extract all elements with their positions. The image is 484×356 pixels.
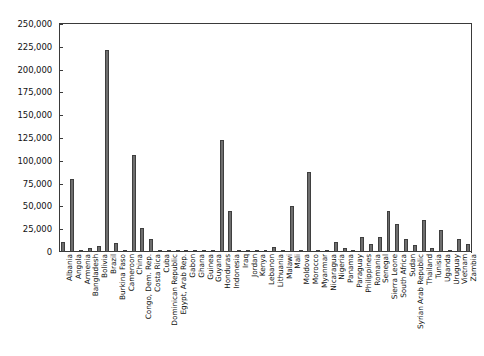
bar (79, 250, 83, 252)
bar-slot (103, 24, 112, 252)
x-axis-label: Bangladesh (92, 254, 99, 296)
bar (448, 250, 452, 252)
x-axis-label: Kenya (259, 254, 266, 276)
y-axis-tick-label: 50,000 (0, 201, 52, 211)
bar-slot (410, 24, 419, 252)
y-axis-tick-label: 0 (0, 247, 52, 257)
x-axis-label: Uruguay (453, 254, 460, 285)
bar (360, 237, 364, 252)
x-axis-label: Vietnam (461, 254, 468, 284)
x-axis-label: Romania (374, 254, 381, 286)
x-axis-label: Guyana (215, 254, 222, 282)
bar (105, 50, 109, 252)
x-axis-label: Congo, Dem. Rep. (145, 254, 152, 319)
bar (466, 244, 470, 252)
bar (202, 250, 206, 252)
bar-slot (244, 24, 253, 252)
bar (140, 228, 144, 252)
y-axis-tick-label: 25,000 (0, 224, 52, 234)
bar-slot (358, 24, 367, 252)
x-axis-label: Honduras (224, 254, 231, 289)
bar-slot (112, 24, 121, 252)
bar (264, 250, 268, 252)
x-axis-label: Sudan (409, 254, 416, 277)
x-axis-label: Ghana (198, 254, 205, 278)
x-axis-label: Cuba (163, 254, 170, 273)
x-axis-label: Costa Rica (154, 254, 161, 292)
bar-slot (340, 24, 349, 252)
x-axis-label: Panama (347, 254, 354, 283)
bar (114, 243, 118, 252)
x-axis-label: Myanmar (321, 254, 328, 288)
bar-slot (446, 24, 455, 252)
bar (123, 250, 127, 252)
bar (316, 250, 320, 252)
bar-slot (226, 24, 235, 252)
bar-slot (454, 24, 463, 252)
bar (193, 250, 197, 252)
bar (457, 239, 461, 252)
x-axis-label: Moldova (303, 254, 310, 284)
x-axis-label: Nigeria (338, 254, 345, 280)
y-axis-tick-label: 200,000 (0, 65, 52, 75)
x-axis-label: Philippines (365, 254, 372, 293)
y-axis-tick-label: 125,000 (0, 133, 52, 143)
bar-slot (305, 24, 314, 252)
y-axis-tick-label: 150,000 (0, 110, 52, 120)
bar-series (59, 24, 472, 252)
bar-slot (463, 24, 472, 252)
x-axis-label: China (136, 254, 143, 275)
bar (246, 250, 250, 252)
bar (70, 179, 74, 252)
bar (290, 206, 294, 252)
x-axis-label: Lebanon (268, 254, 275, 285)
bar-slot (147, 24, 156, 252)
bar-slot (279, 24, 288, 252)
bar-slot (296, 24, 305, 252)
bar-slot (235, 24, 244, 252)
x-axis-labels: AlbaniaAngolaArmeniaBangladeshBoliviaBra… (59, 254, 472, 354)
bar (255, 250, 259, 252)
x-axis-label: Mali (294, 254, 301, 269)
bar-slot (200, 24, 209, 252)
x-axis-label: Morocco (312, 254, 319, 284)
x-axis-label: Angola (75, 254, 82, 279)
bar-slot (85, 24, 94, 252)
bar-slot (375, 24, 384, 252)
bar-slot (384, 24, 393, 252)
bar-slot (428, 24, 437, 252)
bar-slot (331, 24, 340, 252)
bar (395, 224, 399, 252)
bar (228, 211, 232, 252)
bar (378, 237, 382, 253)
x-axis-label: Jordan (251, 254, 258, 277)
bar (369, 244, 373, 252)
bar-slot (182, 24, 191, 252)
bar (132, 155, 136, 252)
x-axis-label: Burkina Faso (119, 254, 126, 300)
x-axis-label: Brazil (110, 254, 117, 274)
bar-slot (138, 24, 147, 252)
bar-slot (173, 24, 182, 252)
bar-slot (252, 24, 261, 252)
x-axis-label: Egypt, Arab Rep. (180, 254, 187, 314)
bar (211, 250, 215, 252)
bar (158, 250, 162, 252)
x-axis-label: Bolivia (101, 254, 108, 278)
y-axis-tick-label: 175,000 (0, 87, 52, 97)
bar-slot (270, 24, 279, 252)
bar-slot (314, 24, 323, 252)
bar-slot (402, 24, 411, 252)
bar (237, 250, 241, 252)
bar (422, 220, 426, 252)
bar-slot (217, 24, 226, 252)
bar-slot (129, 24, 138, 252)
bar (343, 248, 347, 252)
bar (176, 250, 180, 252)
x-axis-label: Senegal (382, 254, 389, 283)
bar-slot (419, 24, 428, 252)
bar (184, 250, 188, 252)
x-axis-label: Albania (66, 254, 73, 281)
bar (88, 248, 92, 252)
x-axis-label: Cameroon (128, 254, 135, 291)
